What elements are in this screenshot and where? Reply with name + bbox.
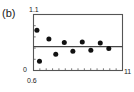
data-points (34, 28, 111, 64)
figure-panel: (b) 1.1 0 0.6 11 (0, 0, 134, 92)
plot-frame (34, 15, 123, 71)
scatter-plot (0, 0, 134, 92)
axis-ticks (34, 26, 117, 71)
